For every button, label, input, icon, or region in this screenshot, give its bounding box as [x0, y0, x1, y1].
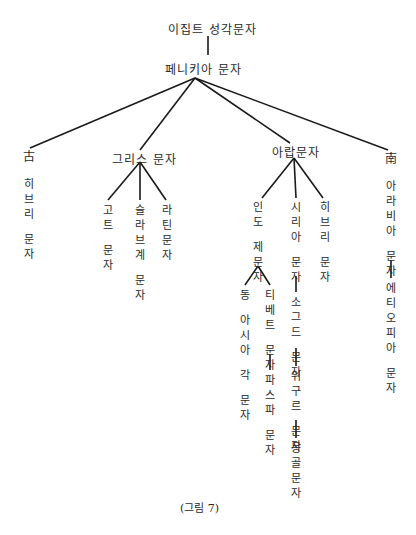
node-arabic: 아랍문자: [272, 143, 320, 160]
old-prefix: 古: [22, 150, 36, 165]
node-mongolian: 몽골문자: [289, 441, 303, 501]
node-indic: 인도제문자: [251, 200, 265, 285]
old-hebrew-label: 히브리문자: [22, 177, 36, 262]
node-egyptian-hieroglyphs: 이집트 성각문자: [168, 20, 257, 37]
south-arabian-label: 아라비아문자: [384, 179, 398, 279]
node-phoenician: 페니키아 문자: [165, 60, 242, 77]
node-gothic: 고트문자: [101, 203, 115, 273]
node-old-hebrew: 古 히브리문자: [22, 150, 36, 262]
node-phagspa: 파스파문자: [263, 373, 277, 458]
node-east-asian: 동아시아각문자: [238, 288, 252, 423]
south-prefix: 南: [384, 152, 398, 167]
node-slavic: 슬라브계문자: [133, 203, 147, 303]
node-hebrew: 히브리문자: [318, 200, 332, 285]
figure-caption: (그림 7): [180, 499, 219, 515]
node-latin: 라틴문자: [160, 203, 174, 263]
node-south-arabian: 南 아라비아문자: [384, 152, 398, 279]
node-tibetan: 티베트문자: [263, 288, 277, 373]
node-greek: 그리스 문자: [112, 150, 177, 167]
node-sogdian: 소그드문자: [289, 295, 303, 380]
connector-lines: [0, 0, 416, 535]
node-syriac: 시리아문자: [289, 200, 303, 285]
node-ethiopic: 에티오피아문자: [384, 281, 398, 396]
